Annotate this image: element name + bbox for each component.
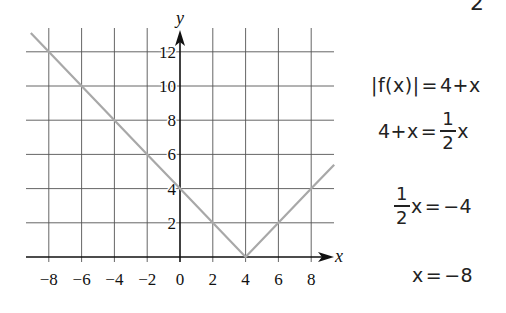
page-number-fragment: 2 — [470, 0, 484, 15]
y-tick-label: 8 — [168, 111, 177, 130]
eq2-equals: = — [421, 120, 437, 142]
x-tick-label: −6 — [73, 270, 91, 289]
x-tick-label: −8 — [40, 270, 58, 289]
y-axis-label: y — [174, 8, 184, 28]
eq2-left: 4+x — [378, 120, 419, 142]
eq1-right: 4+x — [440, 74, 481, 96]
eq4-right: −8 — [444, 264, 473, 286]
eq2-denominator: 2 — [440, 134, 456, 152]
x-tick-label: 2 — [209, 270, 218, 289]
eq3-fraction: 1 2 — [394, 185, 410, 227]
y-tick-label: 2 — [168, 214, 177, 233]
eq1-left: |f(x)| — [371, 74, 420, 96]
eq4-equals: = — [426, 264, 442, 286]
x-tick-label: −2 — [138, 270, 156, 289]
eq4-left: x — [412, 264, 424, 286]
eq2-fraction: 1 2 — [440, 110, 456, 152]
x-tick-label: −4 — [105, 270, 124, 289]
y-tick-label: 6 — [168, 145, 177, 164]
x-axis-label: x — [334, 246, 343, 266]
equation-line-3: 1 2 x = −4 — [393, 185, 472, 227]
x-tick-label: 4 — [241, 270, 250, 289]
equation-line-2: 4+x = 1 2 x — [378, 110, 469, 152]
x-tick-label: 6 — [274, 270, 283, 289]
eq3-denominator: 2 — [394, 209, 410, 227]
eq3-var: x — [411, 195, 423, 217]
eq1-equals: = — [422, 74, 438, 96]
x-tick-label: 0 — [176, 270, 185, 289]
x-tick-label: 8 — [307, 270, 316, 289]
equation-line-4: x = −8 — [412, 264, 473, 286]
eq3-equals: = — [425, 195, 441, 217]
eq3-right: −4 — [443, 195, 472, 217]
eq2-var: x — [457, 120, 469, 142]
y-tick-label: 12 — [159, 43, 176, 62]
eq3-numerator: 1 — [394, 185, 410, 203]
equation-line-1: |f(x)| = 4+x — [371, 74, 481, 96]
series-line — [31, 33, 334, 257]
eq2-numerator: 1 — [440, 110, 456, 128]
y-tick-label: 10 — [159, 77, 176, 96]
absolute-value-chart: xy−8−6−4−20246824681012 — [0, 0, 345, 313]
